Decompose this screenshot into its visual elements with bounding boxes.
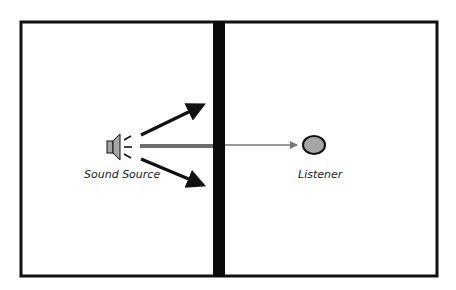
room-outline	[21, 22, 437, 276]
diagram: Sound Source Listener	[0, 0, 456, 290]
wall	[213, 21, 225, 277]
reflection-arrow-up	[141, 105, 203, 135]
listener-label: Listener	[298, 168, 342, 181]
sound-source-label: Sound Source	[84, 168, 160, 181]
speaker-icon	[107, 134, 132, 160]
listener-icon	[303, 136, 325, 154]
